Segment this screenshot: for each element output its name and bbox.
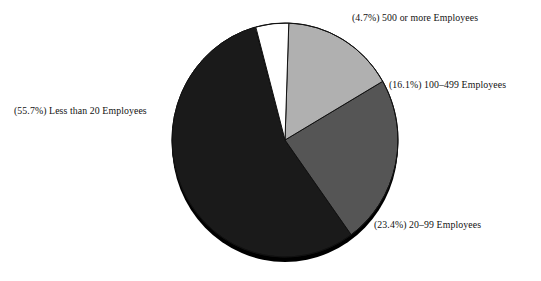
pie-slices-group bbox=[172, 23, 398, 257]
pie-chart-svg bbox=[0, 0, 541, 281]
pie-label-100-to-499: (16.1%) 100–499 Employees bbox=[389, 79, 506, 91]
pie-label-500-or-more: (4.7%) 500 or more Employees bbox=[352, 12, 478, 24]
pie-label-less-than-20: (55.7%) Less than 20 Employees bbox=[14, 105, 147, 117]
pie-label-20-to-99: (23.4%) 20–99 Employees bbox=[374, 219, 481, 231]
pie-chart-figure: (4.7%) 500 or more Employees (16.1%) 100… bbox=[0, 0, 541, 281]
